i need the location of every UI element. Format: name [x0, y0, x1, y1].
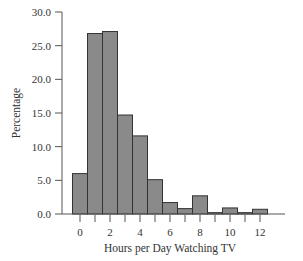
y-tick-label: 15.0	[32, 107, 52, 119]
x-tick-label: 6	[167, 226, 173, 238]
x-tick-label: 4	[137, 226, 143, 238]
histogram-bar	[163, 203, 178, 214]
x-axis-title: Hours per Day Watching TV	[104, 242, 237, 255]
histogram-bar	[193, 196, 208, 214]
y-tick-label: 20.0	[32, 73, 52, 85]
y-axis: 0.05.010.015.020.025.030.0	[32, 6, 62, 220]
histogram-bar	[178, 209, 193, 214]
y-axis-title: Percentage	[10, 88, 23, 138]
x-tick-label: 2	[107, 226, 113, 238]
x-tick-label: 8	[197, 226, 203, 238]
bars-group	[73, 32, 268, 214]
x-tick-label: 0	[77, 226, 83, 238]
histogram-bar	[103, 32, 118, 214]
x-axis: 024681012	[62, 214, 285, 238]
y-tick-label: 0.0	[37, 208, 51, 220]
histogram-bar	[118, 115, 133, 214]
histogram-bar	[148, 180, 163, 214]
histogram-chart: 0.05.010.015.020.025.030.0 024681012 Per…	[0, 0, 303, 261]
histogram-bar	[88, 34, 103, 214]
histogram-bar	[223, 208, 238, 214]
y-tick-label: 5.0	[37, 174, 51, 186]
x-tick-label: 10	[225, 226, 237, 238]
histogram-bar	[133, 136, 148, 214]
x-tick-label: 12	[255, 226, 266, 238]
histogram-bar	[253, 209, 268, 214]
y-tick-label: 10.0	[32, 141, 52, 153]
y-tick-label: 25.0	[32, 40, 52, 52]
histogram-bar	[73, 174, 88, 214]
y-tick-label: 30.0	[32, 6, 52, 18]
